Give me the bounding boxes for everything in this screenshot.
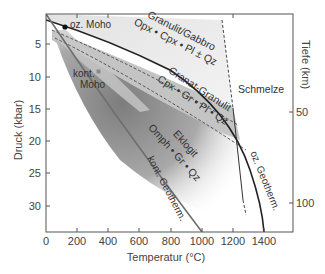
right-ticks	[289, 112, 293, 203]
y-tick-30: 30	[29, 200, 41, 212]
bottom-ticks	[77, 228, 264, 232]
continental-moho-marker	[97, 70, 101, 74]
y-axis-title: Druck (kbar)	[12, 100, 24, 161]
y-tick-25: 25	[29, 167, 41, 179]
depth-axis-title: Tiefe (km)	[300, 40, 312, 89]
x-axis-title: Temperatur (°C)	[127, 251, 205, 263]
x-tick-0: 0	[43, 235, 49, 247]
continental-moho-label-2: Moho	[80, 79, 105, 90]
x-tick-1200: 1200	[221, 235, 245, 247]
melt-label: Schmelze	[238, 83, 284, 95]
oceanic-moho-marker	[62, 24, 67, 29]
x-tick-400: 400	[99, 235, 117, 247]
x-tick-600: 600	[130, 235, 148, 247]
y-tick-15: 15	[29, 103, 41, 115]
oceanic-moho-label: oz. Moho	[70, 19, 112, 30]
y-tick-5: 5	[35, 38, 41, 50]
x-tick-1000: 1000	[190, 235, 214, 247]
depth-tick-100: 100	[296, 197, 314, 209]
x-tick-200: 200	[68, 235, 86, 247]
x-tick-1400: 1400	[252, 235, 276, 247]
left-ticks	[46, 44, 50, 206]
y-tick-20: 20	[29, 135, 41, 147]
y-tick-10: 10	[29, 71, 41, 83]
x-tick-800: 800	[162, 235, 180, 247]
phase-diagram: 5 10 15 20 25 30 0 200 400 600 800 1000 …	[0, 0, 325, 274]
depth-tick-50: 50	[296, 106, 308, 118]
continental-moho-label-1: kont.	[73, 68, 95, 79]
